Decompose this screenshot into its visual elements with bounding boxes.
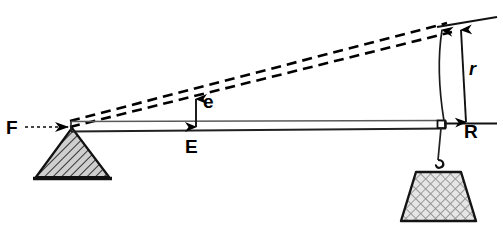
beam-top-rail bbox=[71, 121, 446, 122]
label-resistance-R: R bbox=[464, 121, 478, 142]
fulcrum-group bbox=[33, 128, 112, 179]
diagram-canvas: r e E R F bbox=[0, 0, 503, 228]
beam-bottom-rail bbox=[71, 129, 446, 132]
label-radius-r: r bbox=[469, 59, 477, 79]
displaced-lever-dashed-rays bbox=[70, 23, 452, 127]
dashed-ray-upper bbox=[70, 23, 447, 121]
lever-beam-group bbox=[71, 121, 446, 132]
load-hook-icon bbox=[436, 160, 443, 168]
radius-arrow-line bbox=[461, 30, 466, 122]
lever-diagram: r e E R F bbox=[0, 0, 503, 228]
swing-arc bbox=[439, 30, 444, 121]
label-force-F: F bbox=[6, 117, 18, 138]
load-weight-trapezoid bbox=[401, 172, 476, 221]
label-effort-E: E bbox=[185, 136, 198, 157]
load-cord bbox=[438, 128, 441, 160]
radius-measure-arrow bbox=[461, 30, 466, 122]
fulcrum-triangle bbox=[36, 128, 109, 177]
dashed-ray-lower bbox=[70, 32, 452, 127]
label-effort-small-e: e bbox=[203, 91, 214, 112]
beam-end-hole bbox=[438, 121, 446, 129]
